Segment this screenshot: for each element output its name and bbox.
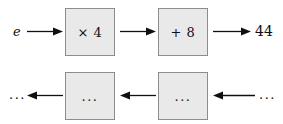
inverse-output-label: ... <box>9 88 26 101</box>
machine-box-inverse-second: ... <box>158 72 208 120</box>
forward-output-label: 44 <box>255 24 273 38</box>
arrow-right-add-to-output <box>213 26 251 37</box>
arrow-right-input-to-multiply <box>27 26 63 37</box>
arrow-left-inverse-first-to-output <box>27 90 63 101</box>
arrow-left-input-to-inverse-second <box>213 90 255 101</box>
arrow-left-inverse-second-to-first <box>120 90 156 101</box>
machine-box-inverse-first: ... <box>65 72 115 120</box>
machine-box-inverse-first-label: ... <box>82 90 99 103</box>
forward-input-label: e <box>13 25 21 38</box>
machine-box-multiply-4-label: × 4 <box>78 26 103 39</box>
function-machine-diagram: e × 4 + 8 44 ... ... <box>0 0 283 124</box>
inverse-input-label: ... <box>259 88 276 101</box>
machine-box-add-8: + 8 <box>158 8 208 56</box>
arrow-right-multiply-to-add <box>120 26 156 37</box>
machine-box-multiply-4: × 4 <box>65 8 115 56</box>
machine-box-inverse-second-label: ... <box>175 90 192 103</box>
machine-box-add-8-label: + 8 <box>171 26 196 39</box>
